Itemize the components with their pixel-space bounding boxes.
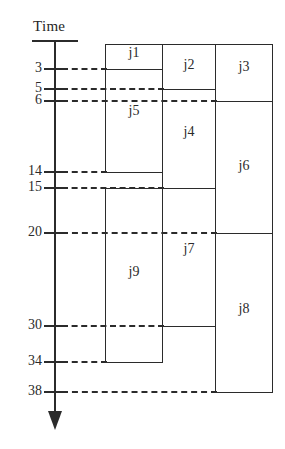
job-label-j7: j7	[162, 241, 216, 257]
gantt-schedule-diagram: Time 3 5 6 14 15 20 30 34 38	[0, 0, 285, 449]
tick-label-3: 3	[10, 60, 42, 76]
job-label-j6: j6	[215, 158, 273, 174]
tick-label-14: 14	[10, 163, 42, 179]
tick-guide-38	[62, 391, 217, 393]
time-axis-line	[54, 41, 56, 411]
tick-label-20: 20	[10, 224, 42, 240]
job-label-j4: j4	[162, 124, 216, 140]
job-label-j8: j8	[215, 301, 273, 317]
tick-label-34: 34	[10, 353, 42, 369]
time-axis-title: Time	[33, 18, 65, 35]
tick-guide-14	[62, 171, 107, 173]
job-label-j2: j2	[162, 57, 216, 73]
job-block-j5[interactable]	[105, 69, 163, 173]
tick-label-6: 6	[10, 92, 42, 108]
tick-label-38: 38	[10, 383, 42, 399]
tick-label-15: 15	[10, 179, 42, 195]
job-label-j5: j5	[105, 103, 163, 119]
job-label-j3: j3	[215, 59, 273, 75]
job-label-j1: j1	[105, 45, 163, 61]
tick-guide-3	[62, 68, 107, 70]
tick-guide-34	[62, 361, 107, 363]
job-block-j7[interactable]	[162, 188, 216, 327]
job-label-j9: j9	[105, 264, 163, 280]
tick-label-30: 30	[10, 317, 42, 333]
time-axis-arrowhead	[48, 411, 62, 430]
